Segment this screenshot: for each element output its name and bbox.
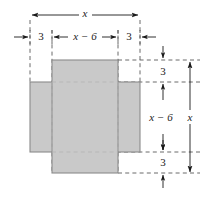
right-overall-label: x [188, 112, 193, 123]
top-right-margin-label: 3 [126, 31, 132, 42]
top-left-margin-label: 3 [38, 31, 44, 42]
geometry-figure: x 3 x − 6 3 3 x − 6 3 x [0, 0, 215, 204]
top-overall-label: x [83, 8, 88, 19]
shaded-region [30, 60, 140, 173]
right-middle-label: x − 6 [149, 112, 172, 123]
right-bottom-margin-label: 3 [160, 157, 166, 168]
vertical-rectangle [52, 60, 118, 173]
top-middle-label: x − 6 [73, 31, 96, 42]
figure-canvas [0, 0, 215, 204]
right-top-margin-label: 3 [160, 66, 166, 77]
